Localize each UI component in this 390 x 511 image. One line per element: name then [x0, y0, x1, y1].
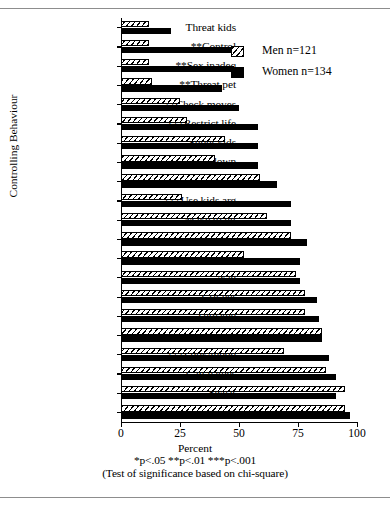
bar-row: Threaten — [121, 307, 357, 326]
bar-men — [121, 59, 149, 65]
chart-figure: Controlling Behaviour Threat kids**Contr… — [0, 0, 390, 511]
bar-row: Shout — [121, 403, 357, 422]
bar-men — [121, 348, 284, 354]
bar-row: Point — [121, 172, 357, 191]
x-axis-tick-label: 25 — [174, 427, 186, 440]
bar-women — [121, 412, 350, 418]
x-axis-tick-label: 50 — [233, 427, 245, 440]
bar-row: Provoke arg — [121, 249, 357, 268]
bar-women — [121, 355, 329, 361]
scan-edge-bottom — [0, 497, 390, 498]
bar-row: **Check moves — [121, 95, 357, 114]
y-axis-title: Controlling Behaviour — [7, 76, 19, 216]
bar-row: Make to hit — [121, 210, 357, 229]
bar-row: Threat kids — [121, 18, 357, 37]
bar-row: ***Use kids arg — [121, 191, 357, 210]
bar-women — [121, 66, 234, 72]
footnote-test-description: (Test of significance based on chi-squar… — [0, 467, 390, 480]
bar-women — [121, 374, 336, 380]
bar-men — [121, 386, 345, 392]
bar-women — [121, 181, 277, 187]
bar-row: Put her down — [121, 153, 357, 172]
bar-men — [121, 309, 305, 315]
bar-women — [121, 297, 317, 303]
legend-label-women: Women n=134 — [262, 64, 332, 79]
bar-men — [121, 136, 225, 142]
filled-square-icon — [231, 67, 244, 78]
bar-women — [121, 143, 258, 149]
bar-row: Question her — [121, 230, 357, 249]
bar-row: Crit fam — [121, 326, 357, 345]
x-axis-tick-label: 100 — [348, 427, 365, 440]
bar-men — [121, 405, 345, 411]
bar-women — [121, 47, 234, 53]
bar-men — [121, 194, 182, 200]
bar-row: Nag — [121, 268, 357, 287]
bar-women — [121, 162, 258, 168]
bar-men — [121, 367, 326, 373]
bar-row: Swear — [121, 384, 357, 403]
bar-men — [121, 174, 260, 180]
bar-men — [121, 213, 267, 219]
bar-men — [121, 21, 149, 27]
bar-women — [121, 85, 222, 91]
bar-men — [121, 78, 152, 84]
legend-item-women: Women n=134 — [231, 64, 371, 85]
y-axis-tick-label: Threat kids — [186, 19, 236, 36]
chart-legend: Men n=121 Women n=134 — [231, 43, 371, 85]
bar-men — [121, 251, 244, 257]
bar-women — [121, 105, 239, 111]
x-axis-tick-label: 0 — [118, 427, 124, 440]
bar-women — [121, 124, 258, 130]
bar-men — [121, 328, 322, 334]
bar-row: ***Look/mood — [121, 345, 357, 364]
bar-row: Shout kids — [121, 133, 357, 152]
bar-women — [121, 316, 319, 322]
bar-women — [121, 393, 336, 399]
chart-footnote: *p<.05 **p<.01 ***p<.001 (Test of signif… — [0, 454, 390, 479]
scan-edge-top — [0, 8, 390, 9]
legend-item-men: Men n=121 — [231, 43, 371, 64]
footnote-significance-levels: *p<.05 **p<.01 ***p<.001 — [0, 454, 390, 467]
bar-men — [121, 232, 291, 238]
bar-men — [121, 117, 187, 123]
bar-men — [121, 98, 180, 104]
bar-women — [121, 220, 291, 226]
bar-women — [121, 335, 322, 341]
hatched-square-icon — [231, 46, 244, 57]
bar-women — [121, 258, 300, 264]
bar-men — [121, 40, 149, 46]
x-axis-title: Percent — [0, 442, 390, 454]
bar-women — [121, 28, 171, 34]
bar-men — [121, 271, 296, 277]
bar-row: Call names — [121, 364, 357, 383]
bar-row: ***Restrict life — [121, 114, 357, 133]
bar-men — [121, 290, 305, 296]
bar-row: Crit her — [121, 287, 357, 306]
x-axis-tick-label: 75 — [292, 427, 304, 440]
bar-women — [121, 278, 300, 284]
bar-women — [121, 201, 291, 207]
bar-men — [121, 155, 215, 161]
bar-women — [121, 239, 307, 245]
legend-label-men: Men n=121 — [262, 43, 317, 58]
